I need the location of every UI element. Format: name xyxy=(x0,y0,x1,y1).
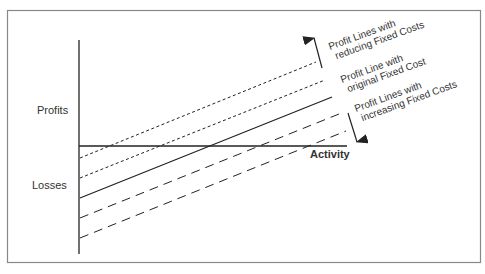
losses-label: Losses xyxy=(32,179,67,191)
profits-label: Profits xyxy=(37,104,69,116)
activity-label: Activity xyxy=(310,148,351,160)
break-even-profit-diagram: Profits Losses Activity Profit Lines wit… xyxy=(0,0,485,274)
